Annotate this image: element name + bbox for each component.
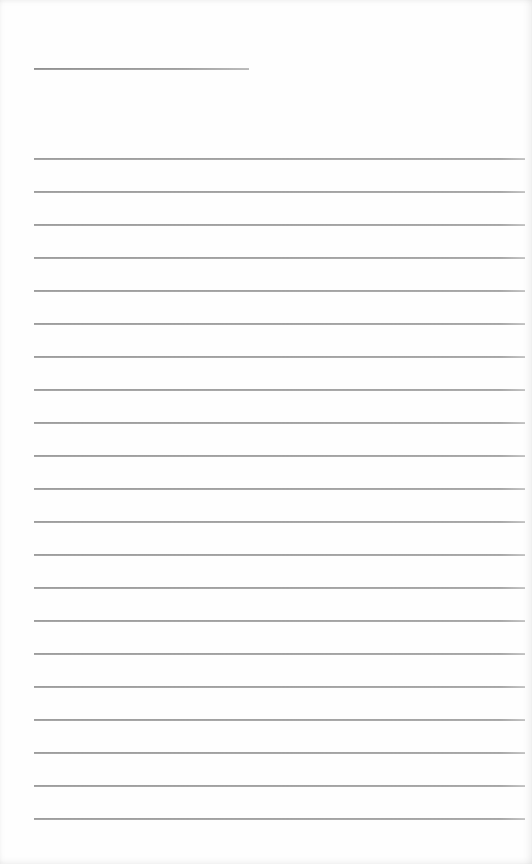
ruled-line bbox=[34, 455, 525, 457]
ruled-line bbox=[34, 389, 525, 391]
ruled-line bbox=[34, 785, 525, 787]
ruled-line bbox=[34, 290, 525, 292]
ruled-line bbox=[34, 422, 525, 424]
ruled-line bbox=[34, 653, 525, 655]
ruled-line bbox=[34, 719, 525, 721]
ruled-line bbox=[34, 752, 525, 754]
ruled-line bbox=[34, 488, 525, 490]
ruled-line bbox=[34, 521, 525, 523]
ruled-line bbox=[34, 554, 525, 556]
ruled-line bbox=[34, 818, 525, 820]
ruled-line bbox=[34, 158, 525, 160]
ruled-line bbox=[34, 224, 525, 226]
ruled-line bbox=[34, 587, 525, 589]
ruled-line bbox=[34, 686, 525, 688]
lined-paper-page bbox=[0, 0, 532, 864]
ruled-line bbox=[34, 356, 525, 358]
ruled-line bbox=[34, 323, 525, 325]
ruled-line bbox=[34, 620, 525, 622]
title-line bbox=[34, 68, 249, 70]
ruled-line bbox=[34, 191, 525, 193]
ruled-line bbox=[34, 257, 525, 259]
